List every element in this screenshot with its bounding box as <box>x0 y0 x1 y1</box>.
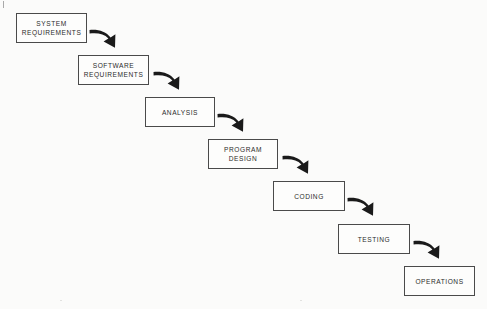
stage-label: OPERATIONS <box>415 277 463 286</box>
stage-label: SYSTEM REQUIREMENTS <box>22 19 82 37</box>
stage-box-analysis[interactable]: ANALYSIS <box>145 97 215 127</box>
stage-label: SOFTWARE REQUIREMENTS <box>84 61 144 79</box>
stage-label: TESTING <box>358 235 390 244</box>
stage-box-program-design[interactable]: PROGRAM DESIGN <box>208 139 278 169</box>
arrow-testing-to-operations-icon <box>412 239 446 264</box>
arrow-software-to-analysis-icon <box>152 70 186 95</box>
arrow-coding-to-testing-icon <box>346 196 380 221</box>
arrow-analysis-to-design-icon <box>216 112 250 137</box>
scan-speck <box>300 300 302 301</box>
scan-speck <box>60 300 62 301</box>
stage-box-software-requirements[interactable]: SOFTWARE REQUIREMENTS <box>78 55 149 85</box>
stage-label: PROGRAM DESIGN <box>224 145 262 163</box>
stage-box-system-requirements[interactable]: SYSTEM REQUIREMENTS <box>16 13 87 43</box>
arrow-system-to-software-icon <box>88 28 122 53</box>
scan-artifact-mark <box>3 1 4 8</box>
stage-label: ANALYSIS <box>162 108 198 117</box>
stage-label: CODING <box>294 192 324 201</box>
arrow-design-to-coding-icon <box>281 154 315 179</box>
waterfall-diagram-canvas: SYSTEM REQUIREMENTS SOFTWARE REQUIREMENT… <box>0 0 487 309</box>
stage-box-operations[interactable]: OPERATIONS <box>404 266 475 296</box>
stage-box-testing[interactable]: TESTING <box>338 224 410 254</box>
stage-box-coding[interactable]: CODING <box>273 181 345 211</box>
